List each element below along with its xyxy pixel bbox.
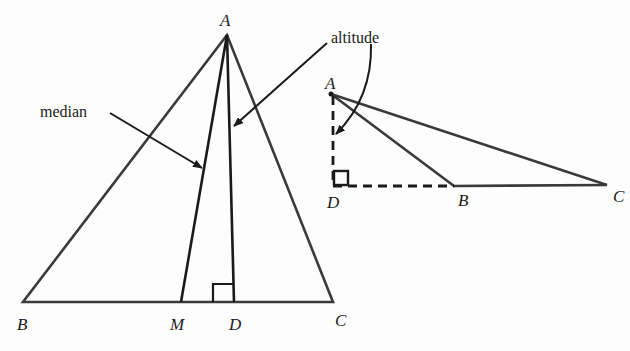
point-m-label: M [170,316,184,333]
right-vertex-a-label: A [325,75,335,92]
median-line [181,35,227,302]
left-triangle [23,35,333,302]
right-vertex-b-label: B [458,192,468,209]
median-annotation: median [40,104,87,120]
altitude-line [227,35,234,302]
vertex-b-label: B [17,316,27,333]
geometry-figure: A B C M D median altitude A B C D [0,0,630,351]
right-point-d-label: D [327,194,339,211]
vertex-c-label: C [335,312,346,329]
right-angle-marker [213,284,233,302]
vertex-a-label: A [220,12,230,29]
median-arrow [110,113,202,168]
point-d-label: D [229,316,241,333]
right-vertex-c-label: C [613,188,624,205]
right-figure-triangle [329,44,608,186]
figure-canvas [0,0,630,351]
altitude-annotation: altitude [331,30,379,46]
right-angle-marker-2 [334,171,348,185]
